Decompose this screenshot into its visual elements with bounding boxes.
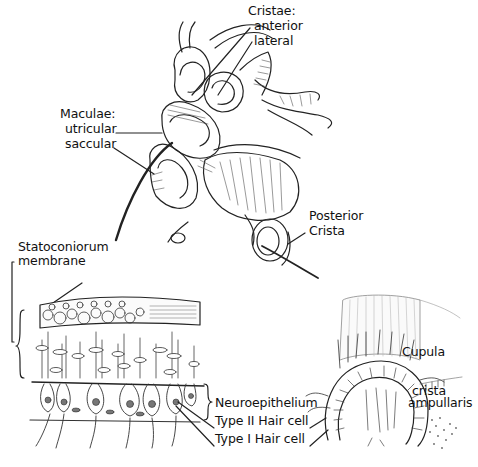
label-ampullaris: ampullaris — [408, 396, 472, 410]
label-posterior: Posterior — [309, 209, 363, 223]
leader-type1-right — [310, 430, 328, 446]
hair-cells — [30, 384, 200, 448]
labyrinth-hatching — [152, 60, 311, 213]
label-maculae-heading: Maculae: — [60, 107, 115, 121]
label-cristae-heading: Cristae: — [248, 4, 296, 18]
brace-cilia — [16, 310, 24, 378]
label-crista: Crista — [309, 224, 345, 238]
arrow-to-macula — [116, 143, 172, 240]
labyrinth-drawing — [150, 22, 332, 265]
label-maculae-saccular: saccular — [65, 137, 116, 151]
vestibular-diagram: Cristae: anterior lateral Maculae: utric… — [0, 0, 478, 467]
leader-posterior-crista — [288, 233, 305, 244]
crista-drawing — [306, 295, 462, 449]
brace-neuroepithelium — [204, 384, 212, 420]
leader-type2-right — [310, 418, 326, 428]
label-membrane: membrane — [18, 254, 86, 268]
leader-lateral — [218, 42, 252, 95]
label-neuroepithelium: Neuroepithelium — [215, 396, 318, 410]
leader-anterior — [192, 28, 250, 95]
label-cristae-lateral: lateral — [254, 34, 293, 48]
label-maculae-utricular: utricular — [65, 122, 117, 136]
label-cristae-anterior: anterior — [254, 19, 303, 33]
label-statoconiorum: Statoconiorum — [18, 240, 109, 254]
label-type2-hair-cell: Type II Hair cell — [215, 414, 309, 428]
label-type1-hair-cell: Type I Hair cell — [215, 432, 305, 446]
label-cupula: Cupula — [402, 345, 445, 359]
bracket-statoconiorum — [12, 262, 14, 342]
